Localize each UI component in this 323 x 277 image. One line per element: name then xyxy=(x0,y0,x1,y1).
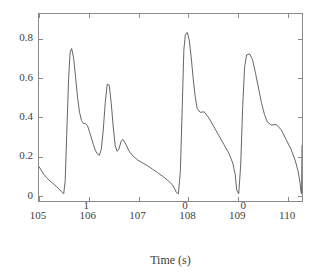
bit-annotation: 1 xyxy=(84,200,90,211)
chart-figure: 00.20.40.60.8 105106107108109110 100 Tim… xyxy=(0,0,323,277)
bit-annotations: 100 xyxy=(0,0,323,277)
x-axis-label: Time (s) xyxy=(38,254,303,267)
bit-annotation: 0 xyxy=(240,200,246,211)
bit-annotation: 0 xyxy=(182,200,188,211)
